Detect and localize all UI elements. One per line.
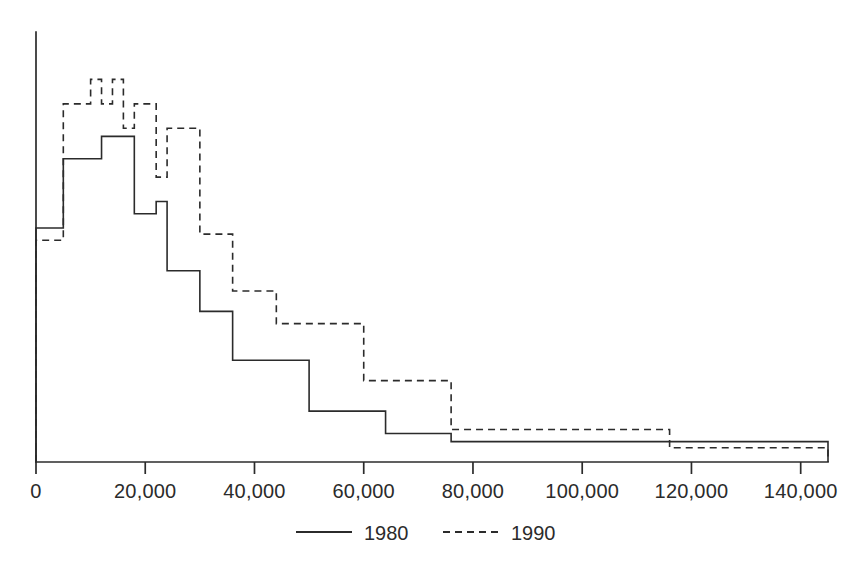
chart-legend: 1980 1990 (296, 522, 556, 544)
x-tick-label-0: 0 (30, 480, 41, 502)
x-tick-label-100000: 100,000 (545, 480, 619, 502)
histogram-chart: 020,00040,00060,00080,000100,000120,0001… (0, 0, 866, 569)
x-axis-tick-marks (36, 462, 801, 474)
x-tick-label-80000: 80,000 (442, 480, 504, 502)
x-tick-label-140000: 140,000 (764, 480, 838, 502)
legend-label-1990: 1990 (511, 522, 556, 544)
x-tick-label-40000: 40,000 (223, 480, 285, 502)
series-line-1990 (36, 79, 828, 462)
chart-canvas: 020,00040,00060,00080,000100,000120,0001… (0, 0, 866, 569)
data-series-group (36, 79, 828, 462)
x-tick-label-20000: 20,000 (114, 480, 176, 502)
x-tick-label-120000: 120,000 (655, 480, 729, 502)
x-tick-label-60000: 60,000 (333, 480, 395, 502)
legend-label-1980: 1980 (364, 522, 409, 544)
x-axis-tick-labels: 020,00040,00060,00080,000100,000120,0001… (30, 480, 837, 502)
series-line-1980 (36, 136, 828, 462)
